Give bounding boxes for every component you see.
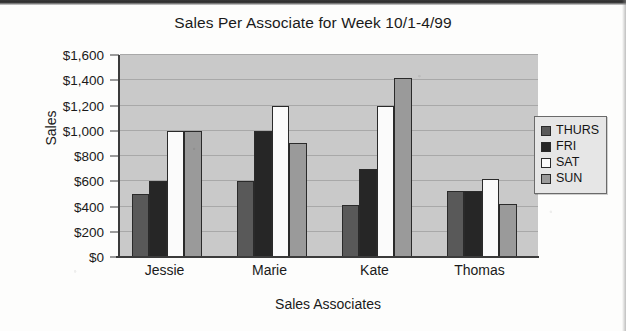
scan-edge-top (0, 0, 626, 5)
y-axis-tick-label: $0 (89, 250, 104, 265)
y-axis-tick-label: $600 (74, 174, 104, 189)
bar-jessie-sat (167, 131, 185, 257)
bar-jessie-thurs (132, 194, 150, 257)
chart-title: Sales Per Associate for Week 10/1-4/99 (0, 14, 626, 32)
bar-series-container (120, 55, 538, 257)
bar-jessie-sun (184, 131, 202, 257)
y-axis-tick-label: $200 (74, 224, 104, 239)
x-axis-title: Sales Associates (118, 296, 538, 312)
legend-swatch-icon-sat (541, 158, 551, 168)
x-axis-label-kate: Kate (360, 262, 389, 278)
legend-swatch-icon-fri (541, 142, 551, 152)
bar-thomas-sat (482, 179, 500, 257)
legend-label: SAT (556, 156, 579, 169)
legend-item-thurs[interactable]: THURS (541, 123, 599, 138)
plot-area (118, 55, 538, 257)
x-axis-category-labels: JessieMarieKateThomas (118, 262, 538, 284)
bar-kate-sun (394, 78, 412, 257)
y-axis-tick-label: $1,200 (63, 98, 104, 113)
legend-item-fri[interactable]: FRI (541, 139, 599, 154)
bar-thomas-sun (499, 204, 517, 257)
bar-jessie-fri (149, 181, 167, 257)
bar-marie-sun (289, 143, 307, 257)
bar-marie-thurs (237, 181, 255, 257)
scan-edge-right (622, 0, 626, 331)
legend-label: SUN (556, 172, 582, 185)
bar-marie-fri (254, 131, 272, 257)
bar-kate-sat (377, 106, 395, 258)
bar-thomas-fri (464, 191, 482, 257)
chart-legend: THURSFRISATSUN (534, 116, 607, 194)
y-axis-tick-label: $400 (74, 199, 104, 214)
bar-thomas-thurs (447, 191, 465, 257)
legend-swatch-icon-sun (541, 174, 551, 184)
x-axis-line (116, 256, 539, 258)
legend-swatch-icon-thurs (541, 126, 551, 136)
y-axis-tick-label: $1,600 (63, 48, 104, 63)
y-axis-tick-label: $1,400 (63, 73, 104, 88)
x-axis-label-marie: Marie (252, 262, 287, 278)
legend-label: FRI (556, 140, 576, 153)
y-axis-tick-labels: $0$200$400$600$800$1,000$1,200$1,400$1,6… (30, 48, 114, 264)
y-axis-tick-label: $800 (74, 149, 104, 164)
x-axis-label-thomas: Thomas (454, 262, 505, 278)
y-axis-tick-label: $1,000 (63, 123, 104, 138)
x-axis-label-jessie: Jessie (145, 262, 185, 278)
chart-page: Sales Per Associate for Week 10/1-4/99 S… (0, 0, 626, 331)
legend-label: THURS (556, 124, 599, 137)
legend-item-sat[interactable]: SAT (541, 155, 599, 170)
bar-kate-thurs (342, 205, 360, 257)
legend-item-sun[interactable]: SUN (541, 171, 599, 186)
bar-marie-sat (272, 106, 290, 258)
bar-kate-fri (359, 169, 377, 257)
